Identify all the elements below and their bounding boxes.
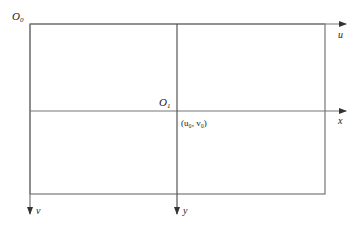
x-axis-label: x <box>337 115 343 126</box>
principal-point-label: (u₀, v₀) <box>181 118 207 128</box>
u-axis-label: u <box>338 29 343 40</box>
origin-physical-label: O1 <box>159 96 170 110</box>
y-axis-label: y <box>182 205 188 216</box>
v-axis-label: v <box>36 205 41 216</box>
origin-pixel-label: O0 <box>12 10 24 24</box>
coordinate-system-diagram: O0 O1 (u₀, v₀) u x v y <box>0 0 358 227</box>
